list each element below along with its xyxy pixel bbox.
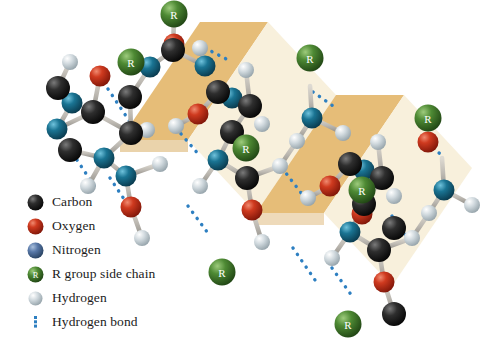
oxygen-sphere-icon [18,218,52,235]
legend-item-r-group: R R group side chain [18,262,208,286]
r-group-label: R [218,267,226,279]
legend-item-hydrogen-bond: Hydrogen bond [18,310,208,334]
hydrogen-bond [332,268,352,296]
figure-container: R R R R R R R R [0,0,489,352]
legend: Carbon Oxygen Nitrogen [18,190,208,334]
r-group-label: R [424,113,432,125]
legend-label: Nitrogen [52,242,101,258]
pleat-shadow-2 [256,213,324,225]
r-group-label: R [306,53,314,65]
r-group-label: R [170,9,178,21]
legend-item-nitrogen: Nitrogen [18,238,208,262]
r-group-label: R [32,270,38,280]
hydrogen-bond [293,248,315,280]
r-group-label: R [344,319,352,331]
legend-label: Carbon [52,194,92,210]
legend-item-hydrogen: Hydrogen [18,286,208,310]
r-group-label: R [358,185,366,197]
legend-item-oxygen: Oxygen [18,214,208,238]
legend-label: Oxygen [52,218,95,234]
hydrogen-bond-dotted-icon [18,314,52,331]
hydrogen-sphere-icon [18,290,52,307]
r-group-label: R [127,57,135,69]
legend-label: Hydrogen bond [52,314,138,330]
legend-label: R group side chain [52,266,155,282]
legend-label: Hydrogen [52,290,107,306]
legend-item-carbon: Carbon [18,190,208,214]
nitrogen-sphere-icon [18,242,52,259]
carbon-sphere-icon [18,194,52,211]
r-group-sphere-icon: R [18,266,52,283]
r-group-label: R [242,143,250,155]
